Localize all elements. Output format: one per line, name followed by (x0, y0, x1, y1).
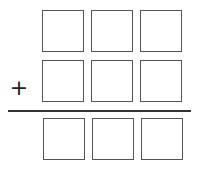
addend-2-hundreds-box[interactable] (42, 60, 84, 102)
addend-1-ones-box[interactable] (140, 10, 182, 52)
sum-hundreds-box[interactable] (43, 118, 85, 160)
sum-ones-box[interactable] (141, 118, 183, 160)
sum-line (8, 110, 191, 112)
addend-1-hundreds-box[interactable] (42, 10, 84, 52)
sum-tens-box[interactable] (92, 118, 134, 160)
addend-2-tens-box[interactable] (91, 60, 133, 102)
plus-sign: + (9, 78, 29, 98)
addend-2-ones-box[interactable] (140, 60, 182, 102)
addend-1-tens-box[interactable] (91, 10, 133, 52)
